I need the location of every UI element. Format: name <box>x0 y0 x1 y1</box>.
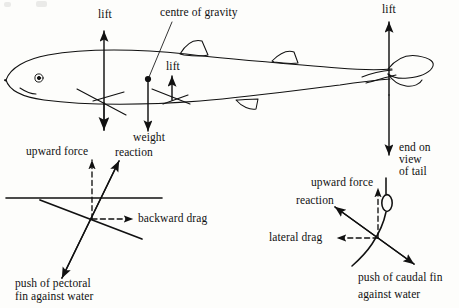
caudal-fin <box>362 56 433 87</box>
caudal-push-arrow <box>335 207 414 264</box>
label-caudal-upward-force: upward force <box>311 176 373 189</box>
label-pectoral-push-line2: fin against water <box>15 290 93 303</box>
pectoral-fin-strokes <box>77 89 126 115</box>
label-weight: weight <box>128 131 170 144</box>
figure-canvas: lift centre of gravity lift lift weight … <box>0 0 459 308</box>
shark-eye <box>35 74 43 82</box>
pelvic-fin <box>236 99 258 109</box>
label-caudal-push-line1: push of caudal fin <box>358 271 443 284</box>
label-lift-middle: lift <box>156 60 190 73</box>
mid-fin-strokes <box>152 89 190 104</box>
label-backward-drag: backward drag <box>138 212 207 225</box>
shark-body-outline <box>5 50 393 104</box>
label-lateral-drag: lateral drag <box>269 231 322 244</box>
label-caudal-push-line2: against water <box>358 288 420 301</box>
label-pectoral-upward-force: upward force <box>26 145 88 158</box>
caudal-tail-loop <box>382 195 392 212</box>
label-pectoral-push-line1: push of pectoral <box>15 277 91 290</box>
label-end-on-view-of-tail-line1: end on <box>399 141 431 154</box>
label-end-on-view-of-tail-line3: of tail <box>399 165 427 178</box>
label-lift-front: lift <box>88 8 122 21</box>
centre-of-gravity-dot <box>145 76 151 82</box>
label-caudal-reaction: reaction <box>296 194 334 207</box>
label-pectoral-reaction: reaction <box>115 146 153 159</box>
caudal-tail-blade <box>352 178 386 266</box>
label-end-on-view-of-tail-line2: view <box>399 153 422 166</box>
second-dorsal-fin <box>272 51 298 63</box>
label-lift-tail: lift <box>372 3 406 16</box>
label-centre-of-gravity: centre of gravity <box>160 6 238 19</box>
